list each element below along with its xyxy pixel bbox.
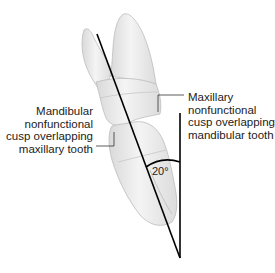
- label-line: nonfunctional: [6, 118, 93, 131]
- label-line: mandibular tooth: [188, 129, 275, 142]
- label-line: cusp overlapping: [188, 116, 275, 129]
- label-line: Mandibular: [6, 105, 93, 118]
- label-line: maxillary tooth: [6, 143, 93, 156]
- label-line: nonfunctional: [188, 104, 275, 117]
- mandibular-cusp-label: Mandibular nonfunctional cusp overlappin…: [6, 105, 93, 155]
- maxillary-leader-line: [158, 95, 184, 112]
- label-line: cusp overlapping: [6, 130, 93, 143]
- angle-label: 20°: [152, 165, 169, 177]
- maxillary-tooth: [82, 14, 161, 126]
- label-line: Maxillary: [188, 91, 275, 104]
- maxillary-cusp-label: Maxillary nonfunctional cusp overlapping…: [188, 91, 275, 141]
